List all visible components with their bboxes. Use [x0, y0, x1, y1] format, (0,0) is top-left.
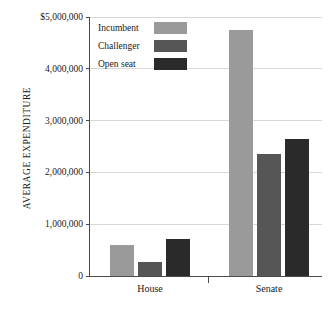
- gridline: [90, 120, 322, 121]
- legend-swatch-incumbent: [154, 22, 187, 34]
- y-tick-mark: [86, 68, 90, 69]
- legend-item: Open seat: [98, 56, 187, 72]
- legend-item-label: Incumbent: [98, 23, 154, 33]
- bar-senate-incumbent: [229, 30, 253, 276]
- y-tick-label: 2,000,000: [45, 167, 83, 177]
- bar-senate-open-seat: [285, 139, 309, 276]
- x-tick-label-senate: Senate: [256, 283, 283, 294]
- legend-swatch-challenger: [154, 40, 187, 52]
- y-tick-mark: [86, 120, 90, 121]
- legend-item: Incumbent: [98, 20, 187, 36]
- y-tick-label: 0: [78, 271, 83, 281]
- x-tick-label-house: House: [137, 283, 163, 294]
- gridline: [90, 17, 322, 18]
- y-tick-mark: [86, 276, 90, 277]
- y-tick-mark: [86, 224, 90, 225]
- y-tick-label: 4,000,000: [45, 64, 83, 74]
- legend-item-label: Challenger: [98, 41, 154, 51]
- legend-item: Challenger: [98, 38, 187, 54]
- x-axis-group-separator-tick: [208, 276, 209, 283]
- chart-legend: Incumbent Challenger Open seat: [98, 20, 187, 74]
- y-tick-label: $5,000,000: [40, 12, 83, 22]
- y-tick-label: 3,000,000: [45, 116, 83, 126]
- bar-house-open-seat: [166, 239, 190, 276]
- y-tick-mark: [86, 172, 90, 173]
- y-tick-label: 1,000,000: [45, 219, 83, 229]
- y-tick-mark: [86, 17, 90, 18]
- legend-item-label: Open seat: [98, 59, 154, 69]
- bar-chart: AVERAGE EXPENDITURE 01,000,0002,000,0003…: [0, 0, 332, 314]
- bar-house-challenger: [138, 262, 162, 276]
- bar-senate-challenger: [257, 154, 281, 276]
- y-axis-title: AVERAGE EXPENDITURE: [22, 48, 32, 248]
- legend-swatch-open-seat: [154, 58, 187, 70]
- bar-house-incumbent: [110, 245, 134, 276]
